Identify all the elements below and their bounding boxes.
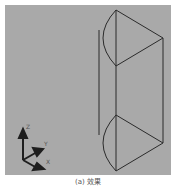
bottom-arc-edge — [103, 115, 116, 171]
3d-viewport[interactable]: Z Y X — [5, 5, 171, 175]
bottom-triangle-edge — [116, 115, 163, 171]
svg-text:Y: Y — [43, 140, 48, 147]
top-arc-edge — [103, 10, 116, 66]
figure-caption: (a) 效果 — [0, 178, 176, 187]
top-triangle-edge — [116, 10, 163, 66]
axis-gizmo-icon: Z Y X — [13, 122, 53, 172]
svg-text:X: X — [46, 158, 50, 165]
svg-text:Z: Z — [26, 123, 30, 130]
